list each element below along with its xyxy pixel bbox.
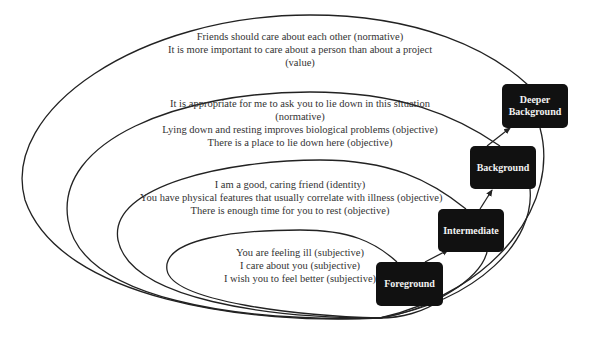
statement: I care about you (subjective) bbox=[200, 259, 400, 272]
statement: I am a good, caring friend (identity) bbox=[140, 178, 440, 191]
statement: Friends should care about each other (no… bbox=[150, 30, 450, 43]
box-label: Foreground bbox=[384, 278, 435, 290]
box-label: Background bbox=[477, 162, 530, 174]
foreground-statements: You are feeling ill (subjective) I care … bbox=[200, 246, 400, 285]
statement: (value) bbox=[150, 56, 450, 69]
arrow-intermediate-to-background bbox=[480, 190, 492, 209]
statement: There is a place to lie down here (objec… bbox=[150, 136, 450, 149]
box-intermediate: Intermediate bbox=[438, 209, 504, 252]
box-label-line1: Deeper bbox=[520, 94, 551, 106]
statement: It is appropriate for me to ask you to l… bbox=[150, 97, 450, 110]
statement: (normative) bbox=[150, 110, 450, 123]
background-statements: It is appropriate for me to ask you to l… bbox=[150, 97, 450, 149]
intermediate-statements: I am a good, caring friend (identity) Yo… bbox=[140, 178, 440, 217]
statement: Lying down and resting improves biologic… bbox=[150, 123, 450, 136]
box-label: Intermediate bbox=[443, 225, 499, 237]
statement: It is more important to care about a per… bbox=[150, 43, 450, 56]
arrow-background-to-deeper bbox=[487, 128, 510, 146]
statement: You have physical features that usually … bbox=[140, 191, 440, 204]
statement: I wish you to feel better (subjective) bbox=[200, 272, 400, 285]
box-label-line2: Background bbox=[509, 106, 562, 118]
statement: You are feeling ill (subjective) bbox=[200, 246, 400, 259]
deeper-background-statements: Friends should care about each other (no… bbox=[150, 30, 450, 69]
statement: There is enough time for you to rest (ob… bbox=[140, 204, 440, 217]
box-foreground: Foreground bbox=[376, 262, 443, 306]
box-background: Background bbox=[470, 146, 536, 189]
box-deeper-background: Deeper Background bbox=[502, 84, 568, 128]
